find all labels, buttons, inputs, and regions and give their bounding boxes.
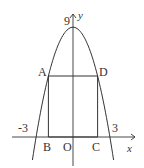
parabola-diagram: y x O 9 -3 3 A D B C bbox=[0, 0, 144, 168]
y-axis-label: y bbox=[77, 9, 83, 21]
vertex-label: 9 bbox=[64, 14, 70, 28]
point-d-label: D bbox=[99, 65, 108, 79]
axes bbox=[12, 14, 135, 166]
x-axis-label: x bbox=[126, 142, 132, 154]
left-root-label: -3 bbox=[18, 121, 28, 135]
point-c-label: C bbox=[92, 140, 100, 154]
right-root-label: 3 bbox=[112, 121, 118, 135]
point-b-label: B bbox=[43, 140, 51, 154]
point-a-label: A bbox=[38, 65, 47, 79]
origin-label: O bbox=[63, 140, 72, 154]
